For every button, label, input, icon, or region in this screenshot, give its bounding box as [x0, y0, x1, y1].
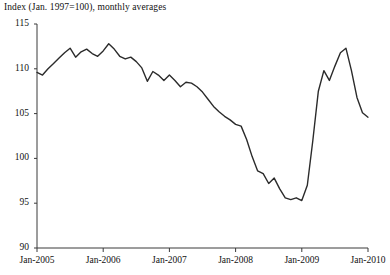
chart-axes	[37, 24, 368, 248]
y-axis-tick-label: 100	[3, 152, 29, 162]
x-axis-tick-label: Jan-2005	[4, 255, 70, 265]
x-axis-tick-label: Jan-2007	[136, 255, 202, 265]
y-axis-tick-label: 105	[3, 108, 29, 118]
x-axis-tick-label: Jan-2009	[269, 255, 335, 265]
y-axis-tick-label: 110	[3, 63, 29, 73]
y-axis-tick-label: 95	[3, 197, 29, 207]
y-axis-tick-label: 90	[3, 242, 29, 252]
index-series-line	[37, 44, 368, 201]
x-axis-ticks	[37, 248, 368, 252]
x-axis-tick-label: Jan-2006	[70, 255, 136, 265]
y-axis-tick-label: 115	[3, 18, 29, 28]
x-axis-tick-label: Jan-2010	[335, 255, 390, 265]
x-axis-tick-label: Jan-2008	[203, 255, 269, 265]
